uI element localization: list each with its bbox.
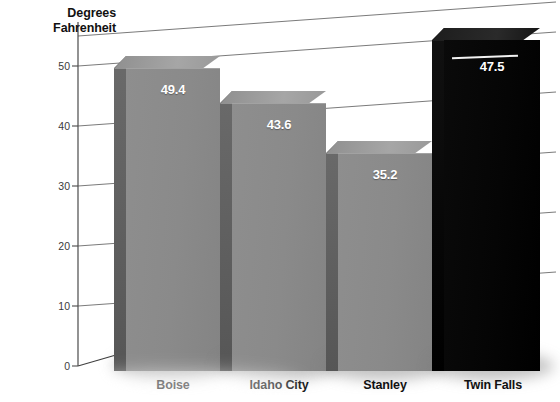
category-label-boise: Boise	[116, 378, 230, 392]
bar-front-face	[444, 40, 540, 371]
bar-stanley[interactable]: 35.2	[338, 153, 432, 371]
category-label-twin-falls: Twin Falls	[434, 378, 552, 392]
bar-value-label: 43.6	[232, 117, 326, 132]
bar-front-face	[338, 153, 432, 371]
category-label-idaho-city: Idaho City	[222, 378, 336, 392]
bar-boise[interactable]: 49.4	[126, 68, 220, 371]
y-tick-label-0: 0	[44, 361, 70, 371]
bar-value-label: 47.5	[444, 59, 540, 74]
y-axis-title-line2: Fahrenheit	[6, 21, 116, 36]
category-label-stanley: Stanley	[328, 378, 442, 392]
bar-value-label: 35.2	[338, 167, 432, 182]
bar-value-label: 49.4	[126, 82, 220, 97]
y-axis-title: Degrees Fahrenheit	[6, 6, 116, 36]
bar-front-face	[126, 68, 220, 371]
bar-idaho-city[interactable]: 43.6	[232, 103, 326, 371]
y-axis-title-line1: Degrees	[6, 6, 116, 21]
y-tick-label-50: 50	[44, 61, 70, 71]
bar-side-face	[114, 56, 126, 371]
bar-front-face	[232, 103, 326, 371]
bar-side-face	[326, 141, 338, 371]
bar-twin-falls[interactable]: 47.5	[444, 40, 540, 371]
y-tick-label-30: 30	[44, 181, 70, 191]
y-tick-label-10: 10	[44, 301, 70, 311]
bar-side-face	[432, 28, 444, 371]
bar-chart: Degrees Fahrenheit 50 40 30 20 10 0 49.4…	[0, 0, 560, 402]
bar-side-face	[220, 91, 232, 371]
y-tick-label-20: 20	[44, 241, 70, 251]
y-tick-label-40: 40	[44, 121, 70, 131]
